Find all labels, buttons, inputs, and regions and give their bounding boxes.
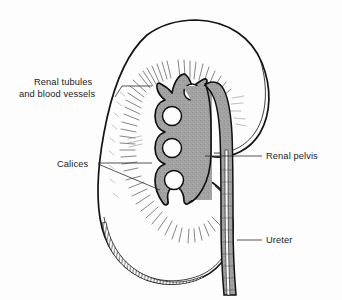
kidney-diagram-canvas: Renal tubules and blood vessels Calices … <box>0 0 342 300</box>
label-renal-pelvis: Renal pelvis <box>266 151 318 161</box>
calyx-cup-middle <box>163 139 182 158</box>
calyx-cup-lower <box>165 171 184 190</box>
calyx-cup-upper <box>163 107 182 126</box>
label-renal-tubules-line2: and blood vessels <box>19 89 95 99</box>
label-ureter: Ureter <box>266 235 292 245</box>
label-renal-tubules-line1: Renal tubules <box>34 77 92 87</box>
kidney-diagram-figure: Renal tubules and blood vessels Calices … <box>0 0 342 300</box>
label-calices: Calices <box>57 159 88 169</box>
